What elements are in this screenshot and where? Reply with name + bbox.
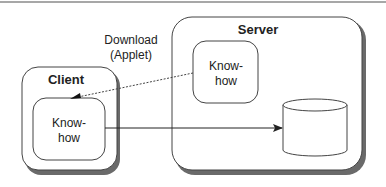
server-knowhow-label-line2: how (215, 74, 237, 88)
architecture-diagram: Server Know- how Client Know- how Downlo… (0, 0, 386, 187)
server-knowhow-label-line1: Know- (209, 59, 243, 73)
client-knowhow-label-line2: how (58, 131, 80, 145)
client-label: Client (48, 72, 85, 87)
download-label-line2: (Applet) (110, 48, 152, 62)
client-knowhow-label-line1: Know- (52, 116, 86, 130)
server-label: Server (238, 22, 278, 37)
database-cylinder-icon (283, 99, 347, 156)
download-label-line1: Download (104, 33, 157, 47)
